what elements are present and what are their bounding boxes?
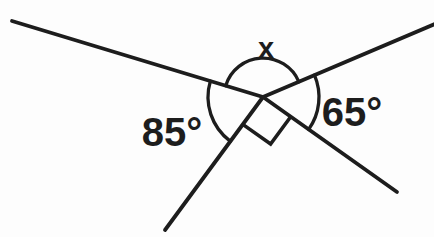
angle-85-label: 85° bbox=[142, 110, 203, 154]
diagram-canvas: x 85° 65° bbox=[0, 0, 434, 237]
geometry-diagram: x 85° 65° bbox=[0, 0, 434, 237]
angle-65-label: 65° bbox=[322, 90, 383, 134]
angle-65-arc bbox=[309, 75, 319, 129]
ray-upper-right bbox=[263, 24, 434, 97]
angle-x-label: x bbox=[258, 32, 274, 64]
right-angle-marker bbox=[243, 117, 291, 144]
angle-85-arc bbox=[208, 81, 230, 141]
